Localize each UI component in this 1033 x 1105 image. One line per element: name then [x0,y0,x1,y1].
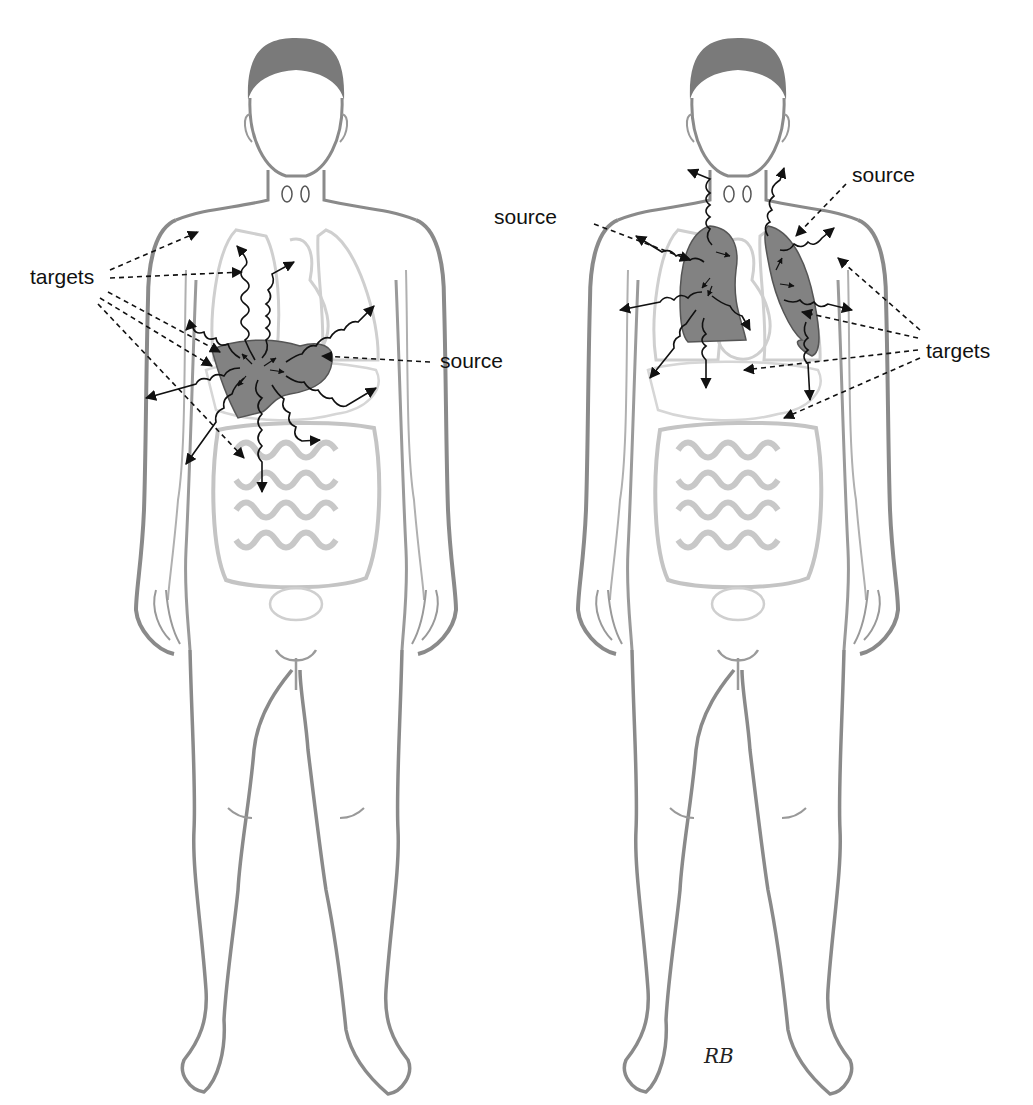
left-source-label: source [440,350,503,371]
left-targets-label: targets [30,266,94,287]
artist-signature: RB [704,1044,734,1068]
right-source-label-b: source [852,164,915,185]
diagram-canvas: targets source source source targets RB [0,0,1033,1105]
right-lung-source-organ [680,226,746,342]
right-target-pointers [744,258,920,418]
right-targets-label: targets [926,340,990,361]
right-body-figure [578,38,920,1094]
liver-source-organ [212,340,332,418]
left-body-figure [98,38,456,1094]
left-lung-source-organ [765,226,819,356]
right-source-pointer-b [796,184,846,236]
right-source-label-a: source [494,206,557,227]
